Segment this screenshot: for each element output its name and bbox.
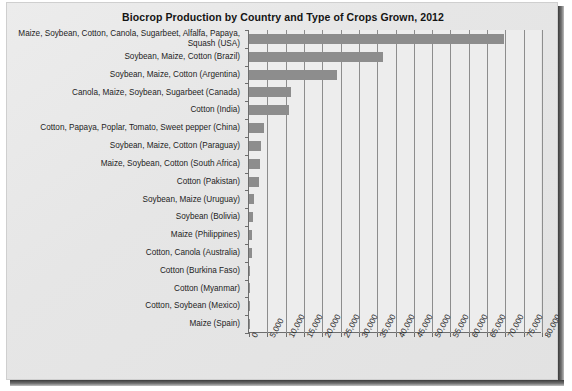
gridline [377, 30, 378, 333]
y-axis-tick [245, 226, 249, 227]
category-axis-labels: Maize, Soybean, Cotton, Canola, Sugarbee… [7, 30, 244, 333]
category-label: Maize, Soybean, Cotton (South Africa) [7, 159, 240, 169]
gridline [359, 30, 360, 333]
bar [249, 266, 250, 276]
bar [249, 105, 289, 115]
bar [249, 212, 253, 222]
bar [249, 159, 260, 169]
gridline [432, 30, 433, 333]
slide-right-bevel [558, 6, 564, 384]
chart-slide: Biocrop Production by Country and Type o… [6, 2, 558, 380]
y-axis-tick [245, 155, 249, 156]
category-label: Soybean, Maize, Cotton (Paraguay) [7, 141, 240, 151]
y-axis-tick [245, 48, 249, 49]
y-axis-tick [245, 244, 249, 245]
category-label: Canola, Maize, Soybean, Sugarbeet (Canad… [7, 88, 240, 98]
category-label: Soybean, Maize, Cotton (Brazil) [7, 52, 240, 62]
bar [249, 283, 250, 293]
gridline [505, 30, 506, 333]
category-label: Soybean, Maize (Uruguay) [7, 195, 240, 205]
y-axis-tick [245, 137, 249, 138]
y-axis-tick [245, 119, 249, 120]
y-axis-tick [245, 315, 249, 316]
slide-corner-fill [0, 386, 572, 391]
category-label: Maize, Soybean, Cotton, Canola, Sugarbee… [7, 29, 240, 48]
bar [249, 230, 252, 240]
category-label: Maize (Spain) [7, 319, 240, 329]
gridline [487, 30, 488, 333]
gridline [524, 30, 525, 333]
category-label: Maize (Philippines) [7, 230, 240, 240]
y-axis-tick [245, 297, 249, 298]
plot-area [248, 30, 541, 333]
category-label: Soybean (Bolivia) [7, 212, 240, 222]
bar [249, 177, 259, 187]
bar [249, 194, 254, 204]
y-axis-tick [245, 333, 249, 334]
category-label: Cotton (Myanmar) [7, 284, 240, 294]
category-label: Cotton (Pakistan) [7, 177, 240, 187]
y-axis-tick [245, 101, 249, 102]
gridline [414, 30, 415, 333]
gridline [542, 30, 543, 333]
category-label: Cotton, Papaya, Poplar, Tomato, Sweet pe… [7, 123, 240, 133]
category-label: Soybean, Maize, Cotton (Argentina) [7, 70, 240, 80]
y-axis-tick [245, 190, 249, 191]
y-axis-tick [245, 66, 249, 67]
category-label: Cotton, Soybean (Mexico) [7, 301, 240, 311]
gridline [396, 30, 397, 333]
gridline [469, 30, 470, 333]
bar [249, 87, 291, 97]
category-label: Cotton (Burkina Faso) [7, 266, 240, 276]
y-axis-tick [245, 173, 249, 174]
y-axis-tick [245, 208, 249, 209]
category-label: Cotton, Canola (Australia) [7, 248, 240, 258]
value-axis-labels: 05,00010,00015,00020,00025,00030,00035,0… [248, 335, 568, 381]
bar [249, 70, 337, 80]
y-axis-tick [245, 262, 249, 263]
bar [249, 52, 383, 62]
gridline [341, 30, 342, 333]
bar [249, 34, 504, 44]
y-axis-tick [245, 83, 249, 84]
bar [249, 141, 261, 151]
bar [249, 248, 252, 258]
chart-title: Biocrop Production by Country and Type o… [7, 11, 559, 23]
category-label: Cotton (India) [7, 105, 240, 115]
bar [249, 301, 250, 311]
gridline [450, 30, 451, 333]
bar [249, 123, 264, 133]
y-axis-tick [245, 280, 249, 281]
bar [249, 319, 250, 329]
y-axis-tick [245, 30, 249, 31]
